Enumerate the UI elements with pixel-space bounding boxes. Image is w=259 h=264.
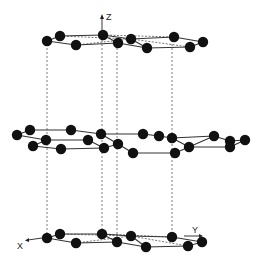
atom-icon	[55, 31, 65, 41]
atom-icon	[99, 143, 109, 153]
bond	[172, 136, 214, 138]
bond	[146, 246, 188, 247]
dashed-bond	[131, 236, 188, 246]
bond	[60, 35, 103, 36]
dashed-bond	[131, 39, 190, 47]
layer-top	[42, 30, 208, 53]
bond	[61, 148, 104, 149]
atom-icon	[126, 231, 136, 241]
atom-icon	[167, 232, 177, 242]
atom-icon	[112, 237, 122, 247]
atom-icon	[225, 142, 235, 152]
layer-middle	[12, 125, 250, 158]
atom-icon	[183, 241, 193, 251]
atom-icon	[138, 129, 148, 139]
atom-icon	[154, 131, 164, 141]
atom-icon	[98, 30, 108, 40]
atom-icon	[96, 129, 106, 139]
x-axis-label: X	[17, 241, 23, 251]
atom-icon	[141, 242, 151, 252]
atom-icon	[56, 144, 66, 154]
x-arrowhead-icon	[25, 238, 29, 242]
atom-icon	[71, 238, 81, 248]
atom-icon	[126, 34, 136, 44]
atom-icon	[83, 135, 93, 145]
bond	[131, 37, 174, 39]
atom-icon	[41, 135, 51, 145]
atom-icon	[240, 135, 250, 145]
atom-icon	[169, 32, 179, 42]
y-axis-label: Y	[192, 225, 198, 235]
atom-icon	[28, 141, 38, 151]
graphite-layer-diagram: Z X Y	[0, 0, 259, 264]
atom-icon	[197, 237, 207, 247]
atom-icon	[167, 133, 177, 143]
x-axis-arrow	[28, 238, 42, 240]
atom-icon	[66, 125, 76, 135]
layer-bottom	[42, 229, 207, 252]
z-arrowhead-icon	[100, 14, 104, 19]
atom-icon	[42, 36, 52, 46]
atom-icon	[185, 42, 195, 52]
atom-icon	[71, 40, 81, 50]
atom-icon	[42, 233, 52, 243]
bond	[131, 236, 172, 237]
atom-layers	[12, 30, 250, 252]
z-axis-label: Z	[106, 12, 112, 22]
atom-icon	[113, 139, 123, 149]
atom-icon	[184, 142, 194, 152]
atom-icon	[209, 131, 219, 141]
atom-icon	[97, 229, 107, 239]
bond	[76, 43, 118, 45]
atom-icon	[128, 148, 138, 158]
atom-icon	[55, 229, 65, 239]
atom-icon	[25, 125, 35, 135]
atom-icon	[12, 130, 22, 140]
atom-icon	[113, 38, 123, 48]
bond	[147, 47, 190, 48]
bond	[76, 242, 117, 243]
atom-icon	[198, 37, 208, 47]
atom-icon	[170, 148, 180, 158]
atom-icon	[142, 43, 152, 53]
